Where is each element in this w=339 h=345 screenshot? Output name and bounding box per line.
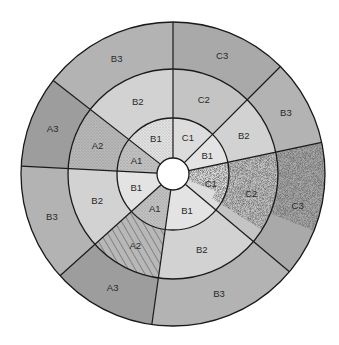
segment-label: B3 bbox=[46, 211, 58, 222]
segment-label: B3 bbox=[213, 288, 225, 299]
segment-label: C1 bbox=[205, 178, 217, 189]
bullseye-diagram: C1C2C3B1B2B3C1C2C3B1B2B3A1A2A3B1B2B3A1A2… bbox=[0, 0, 339, 345]
segment-label: C3 bbox=[292, 200, 304, 211]
segment-label: B1 bbox=[181, 205, 193, 216]
segment-label: B1 bbox=[150, 133, 162, 144]
segment-label: C2 bbox=[245, 188, 257, 199]
segment-label: B3 bbox=[111, 53, 123, 64]
center-hole bbox=[157, 158, 189, 190]
segment-label: B2 bbox=[132, 96, 144, 107]
segment-label: A1 bbox=[149, 203, 161, 214]
segment-label: B1 bbox=[130, 182, 142, 193]
segment-label: A3 bbox=[47, 123, 59, 134]
segment-label: C2 bbox=[198, 94, 210, 105]
segment-label: B1 bbox=[201, 150, 213, 161]
segment-label: C1 bbox=[182, 132, 194, 143]
segment-label: A2 bbox=[92, 140, 104, 151]
segment-label: B2 bbox=[238, 130, 250, 141]
segment-label: B3 bbox=[280, 107, 292, 118]
segment-label: A3 bbox=[107, 282, 119, 293]
segment-label: A1 bbox=[131, 155, 143, 166]
segment-label: B2 bbox=[196, 244, 208, 255]
segment-label: C3 bbox=[216, 50, 228, 61]
segment-label: B2 bbox=[91, 195, 103, 206]
segment-label: A2 bbox=[129, 240, 141, 251]
